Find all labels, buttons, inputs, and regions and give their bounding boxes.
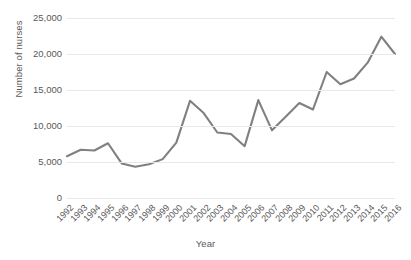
line-chart: Number of nurses 05,00010,00015,00020,00… [0, 0, 411, 260]
y-axis-tick-label: 5,000 [14, 157, 62, 167]
gridline [67, 126, 395, 127]
y-axis-tick-label: 25,000 [14, 13, 62, 23]
gridline [67, 162, 395, 163]
y-axis-tick-label: 15,000 [14, 85, 62, 95]
x-axis-tick-labels: 1992199319941995199619971998199920002001… [67, 198, 395, 238]
series-line [67, 18, 395, 198]
x-axis-title: Year [0, 238, 411, 249]
gridline [67, 18, 395, 19]
y-axis-tick-label: 0 [14, 193, 62, 203]
gridline [67, 54, 395, 55]
y-axis-tick-label: 10,000 [14, 121, 62, 131]
plot-area [67, 18, 395, 198]
gridline [67, 90, 395, 91]
y-axis-tick-label: 20,000 [14, 49, 62, 59]
